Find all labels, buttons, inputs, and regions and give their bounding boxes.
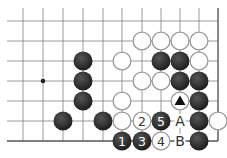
black-stone-1: 1 xyxy=(113,132,132,151)
white-stone xyxy=(152,72,170,90)
move-number-label: 2 xyxy=(138,114,146,129)
point-label-a: A xyxy=(175,113,185,129)
white-stone xyxy=(133,32,151,50)
white-stone xyxy=(113,52,131,70)
black-stone xyxy=(74,92,93,111)
white-stone xyxy=(190,32,208,50)
black-stone xyxy=(190,72,209,91)
black-stone xyxy=(94,112,113,131)
black-stone-icon xyxy=(190,112,209,131)
black-stone xyxy=(152,52,171,71)
white-stone xyxy=(171,32,189,50)
white-stone-triangle-marked xyxy=(171,92,189,110)
white-stone xyxy=(133,72,151,90)
black-stone-icon xyxy=(190,92,209,111)
black-stone xyxy=(190,112,209,131)
white-stone xyxy=(113,92,131,110)
white-stone-icon xyxy=(113,92,131,110)
star-points xyxy=(41,79,46,84)
black-stone xyxy=(171,52,190,71)
black-stone-icon xyxy=(152,52,171,71)
black-stone-icon xyxy=(171,72,190,91)
go-board-diagram: 25134 AB xyxy=(0,0,227,158)
white-stone-icon xyxy=(152,72,170,90)
black-stone xyxy=(190,92,209,111)
black-stone-5: 5 xyxy=(152,112,171,131)
white-stone-icon xyxy=(152,32,170,50)
white-stone-4: 4 xyxy=(152,132,170,150)
black-stone xyxy=(190,132,209,151)
black-stone-icon xyxy=(74,92,93,111)
black-stone-icon xyxy=(190,132,209,151)
point-label-b: B xyxy=(175,133,185,149)
black-stone xyxy=(74,52,93,71)
white-stone-icon xyxy=(133,32,151,50)
move-number-label: 3 xyxy=(138,134,146,149)
black-stone-icon xyxy=(190,72,209,91)
white-stone-icon xyxy=(209,112,227,130)
white-stone-2: 2 xyxy=(133,112,151,130)
stones: 25134 xyxy=(54,32,227,150)
move-number-label: 4 xyxy=(157,134,165,149)
black-stone xyxy=(54,112,73,131)
white-stone xyxy=(209,112,227,130)
white-stone xyxy=(152,32,170,50)
black-stone-icon xyxy=(74,52,93,71)
white-stone-icon xyxy=(190,32,208,50)
star-point xyxy=(41,79,46,84)
white-stone-icon xyxy=(171,32,189,50)
black-stone-icon xyxy=(74,72,93,91)
white-stone-icon xyxy=(113,52,131,70)
white-stone-icon xyxy=(190,52,208,70)
move-number-label: 5 xyxy=(157,114,165,129)
move-number-label: 1 xyxy=(118,134,126,149)
white-stone-icon xyxy=(133,72,151,90)
black-stone-icon xyxy=(171,52,190,71)
black-stone-icon xyxy=(94,112,113,131)
white-stone xyxy=(190,52,208,70)
go-board-svg: 25134 AB xyxy=(0,0,227,158)
black-stone-icon xyxy=(54,112,73,131)
black-stone xyxy=(74,72,93,91)
black-stone-3: 3 xyxy=(133,132,152,151)
white-stone xyxy=(113,112,131,130)
black-stone xyxy=(171,72,190,91)
white-stone-icon xyxy=(113,112,131,130)
